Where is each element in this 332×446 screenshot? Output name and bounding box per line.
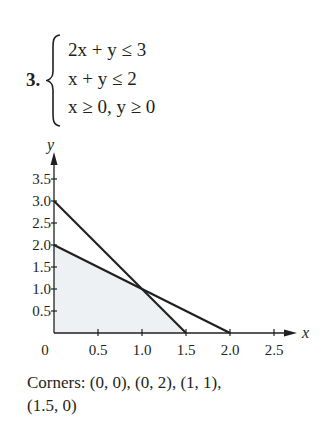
y-axis-label: y: [45, 136, 55, 154]
feasible-region: [54, 245, 186, 333]
svg-text:1.5: 1.5: [32, 259, 51, 275]
x-tick-labels: 0 0.5 1.0 1.5 2.0 2.5: [41, 342, 283, 358]
corners-answer: Corners: (0, 0), (0, 2), (1, 1), (1.5, 0…: [27, 371, 327, 417]
svg-text:1.5: 1.5: [177, 342, 196, 358]
svg-text:1.0: 1.0: [32, 281, 51, 297]
svg-text:1.0: 1.0: [133, 342, 152, 358]
svg-text:2.5: 2.5: [32, 215, 51, 231]
svg-text:0.5: 0.5: [89, 342, 108, 358]
svg-text:2.0: 2.0: [32, 237, 51, 253]
svg-text:0.5: 0.5: [32, 303, 51, 319]
svg-text:0: 0: [41, 342, 49, 358]
y-tick-labels: 0.5 1.0 1.5 2.0 2.5 3.0 3.5: [32, 171, 51, 319]
x-axis-arrow-icon: [284, 330, 297, 337]
corners-line-1: Corners: (0, 0), (0, 2), (1, 1),: [27, 371, 327, 394]
x-axis-label: x: [301, 324, 309, 341]
svg-text:3.5: 3.5: [32, 171, 51, 187]
corners-line-2: (1.5, 0): [27, 394, 327, 417]
svg-text:2.5: 2.5: [265, 342, 284, 358]
svg-text:3.0: 3.0: [32, 193, 51, 209]
svg-text:2.0: 2.0: [221, 342, 240, 358]
y-axis-arrow-icon: [51, 152, 58, 165]
